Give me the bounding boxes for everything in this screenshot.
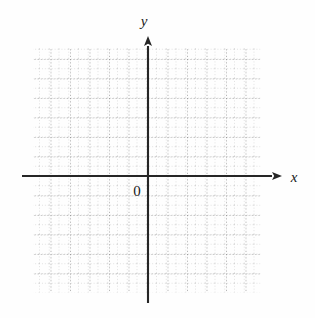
coordinate-plane-svg: y x 0 [0, 0, 315, 318]
coordinate-grid-figure: y x 0 [0, 0, 315, 318]
y-axis-label: y [139, 13, 148, 29]
origin-label: 0 [133, 183, 141, 199]
x-axis-label: x [290, 169, 298, 185]
grid-major-lines [33, 48, 261, 293]
grid-major-group [33, 48, 261, 293]
